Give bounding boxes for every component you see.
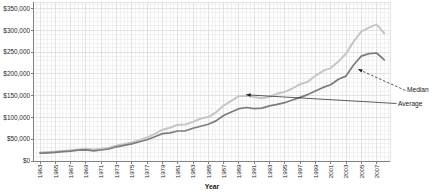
y-tick-label: $300,000 [3,27,30,34]
x-tick-label: 1973 [113,164,120,178]
x-tick-label: 1995 [281,164,288,178]
x-tick-label: 1999 [312,164,319,178]
median-series-callout-label: Median [407,86,429,93]
x-tick-label: 1979 [159,164,166,178]
x-tick-label: 1997 [296,164,303,178]
chart-figure: $0$50,000$100,000$150,000$200,000$250,00… [0,0,442,196]
x-axis-title: Year [205,183,219,190]
x-tick-label: 1967 [67,164,74,178]
median-leader-arrowhead [358,69,363,72]
average-leader-line [246,95,396,104]
x-tick-label: 1977 [143,164,150,178]
y-tick-label: $150,000 [3,92,30,99]
x-tick-label: 2001 [327,164,334,178]
x-tick-label: 1971 [97,164,104,178]
x-tick-label: 1965 [52,164,59,178]
x-tick-label: 1969 [82,164,89,178]
x-tick-label: 1981 [174,164,181,178]
x-tick-label: 2005 [358,164,365,178]
x-tick-label: 1987 [220,164,227,178]
y-tick-label: $0 [23,157,31,164]
x-tick-label: 1975 [128,164,135,178]
x-tick-label: 1985 [205,164,212,178]
y-tick-label: $250,000 [3,48,30,55]
price-history-chart: $0$50,000$100,000$150,000$200,000$250,00… [0,0,442,196]
y-tick-label: $100,000 [3,114,30,121]
x-tick-label: 2007 [373,164,380,178]
x-tick-label: 1991 [250,164,257,178]
x-tick-label: 2003 [342,164,349,178]
y-tick-label: $200,000 [3,70,30,77]
y-tick-label: $350,000 [3,5,30,12]
average-series-callout-label: Average [398,100,422,107]
y-tick-label: $50,000 [7,135,31,142]
x-tick-label: 1963 [36,164,43,178]
x-tick-label: 1989 [235,164,242,178]
x-tick-label: 1983 [189,164,196,178]
x-tick-label: 1993 [266,164,273,178]
